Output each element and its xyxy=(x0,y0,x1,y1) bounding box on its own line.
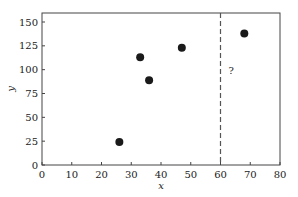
y-tick-label: 125 xyxy=(19,40,38,51)
y-axis-label: y xyxy=(5,86,16,93)
y-tick-label: 50 xyxy=(25,112,38,123)
x-tick-label: 0 xyxy=(39,169,45,180)
data-point xyxy=(115,138,123,146)
x-tick-label: 80 xyxy=(274,169,287,180)
x-tick-label: 20 xyxy=(95,169,108,180)
data-point xyxy=(136,53,144,61)
x-axis-label: x xyxy=(158,180,164,191)
y-tick-label: 0 xyxy=(32,160,38,171)
y-tick-label: 25 xyxy=(25,136,38,147)
y-tick-label: 100 xyxy=(19,64,38,75)
annotation-question-mark: ? xyxy=(228,65,233,76)
data-point xyxy=(240,29,248,37)
scatter-chart: 010203040506070800255075100125150xy? xyxy=(0,0,298,197)
x-tick-label: 50 xyxy=(184,169,197,180)
data-point xyxy=(145,76,153,84)
x-tick-label: 70 xyxy=(244,169,257,180)
y-tick-label: 150 xyxy=(19,17,38,28)
x-tick-label: 40 xyxy=(155,169,168,180)
y-tick-label: 75 xyxy=(25,88,38,99)
x-tick-label: 30 xyxy=(125,169,138,180)
x-tick-label: 60 xyxy=(214,169,227,180)
x-tick-label: 10 xyxy=(65,169,78,180)
chart-container: 010203040506070800255075100125150xy? xyxy=(0,0,298,197)
data-point xyxy=(178,44,186,52)
